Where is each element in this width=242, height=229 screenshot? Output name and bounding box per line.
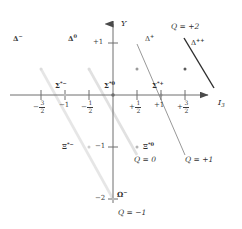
particle-label-delta-zero: Δ0 (68, 34, 77, 42)
particle-label-delta-plusplus: Δ++ (191, 38, 204, 47)
xi-star-zero-charge: *0 (148, 141, 154, 147)
delta-plus-charge: + (150, 33, 154, 39)
particle-label-sigma-star-plus: Σ*+ (152, 81, 164, 89)
weight-diagram-figure: Δ− Δ0 Δ+ Δ++ Σ*− Σ*0 Σ*+ Ξ*− Ξ*0 Ω− Q = … (0, 0, 242, 229)
charge-label-q-plus-1: Q = +1 (185, 156, 213, 164)
y-tick-plus-one: +1 (93, 39, 103, 46)
x-tick-minus-one-half: − 1 2 (81, 100, 93, 114)
charge-label-q-minus-1: Q = −1 (118, 209, 146, 217)
x-tick-p12-numerator: 1 (135, 100, 141, 106)
x-tick-plus-one-half: + 1 2 (129, 100, 141, 114)
x-tick-p12-sign: + (129, 104, 135, 111)
sigma-star-minus-charge: *− (60, 80, 67, 86)
omega-minus-charge: − (123, 189, 127, 195)
particle-label-sigma-star-minus: Σ*− (55, 81, 67, 89)
charge-line-q-minus-1 (41, 69, 113, 199)
x-tick-m12-sign: − (81, 104, 87, 111)
x-tick-plus-three-halves: + 3 2 (177, 100, 189, 114)
particle-label-delta-plus: Δ+ (145, 34, 154, 43)
x-tick-m12-denominator: 2 (87, 108, 93, 114)
sigma-star-zero-charge: *0 (109, 80, 115, 86)
x-tick-p32-numerator: 3 (183, 100, 189, 106)
x-tick-p32-denominator: 2 (183, 108, 189, 114)
x-axis-label-sub: 3 (221, 102, 225, 108)
particle-label-xi-star-zero: Ξ*0 (143, 142, 154, 150)
x-axis-label: I3 (218, 99, 225, 107)
y-axis-label: Y (121, 20, 126, 28)
delta-zero-charge: 0 (73, 33, 76, 39)
x-tick-minus-one: −1 (59, 102, 69, 109)
particle-label-omega-minus: Ω− (117, 190, 127, 198)
x-tick-m12-numerator: 1 (87, 100, 93, 106)
x-tick-m32-numerator: 3 (39, 100, 45, 106)
sigma-star-plus-charge: *+ (157, 80, 164, 86)
particle-label-sigma-star-zero: Σ*0 (104, 81, 115, 89)
x-tick-p12-denominator: 2 (135, 108, 141, 114)
particle-label-xi-star-minus: Ξ*− (62, 142, 74, 150)
delta-minus-charge: − (18, 33, 22, 39)
x-tick-minus-three-halves: − 3 2 (33, 100, 45, 114)
x-tick-m32-sign: − (33, 104, 39, 111)
x-tick-plus-one: +1 (154, 102, 164, 109)
y-tick-minus-one: −1 (95, 143, 105, 150)
delta-plusplus-charge: ++ (196, 37, 204, 43)
y-tick-minus-two: −2 (95, 195, 105, 202)
charge-label-q-plus-2: Q = +2 (171, 23, 199, 31)
xi-star-minus-charge: *− (67, 141, 74, 147)
x-tick-p32-sign: + (177, 104, 183, 111)
particle-label-delta-minus: Δ− (13, 34, 23, 42)
charge-label-q-zero: Q = 0 (134, 156, 156, 164)
x-tick-m32-denominator: 2 (39, 108, 45, 114)
